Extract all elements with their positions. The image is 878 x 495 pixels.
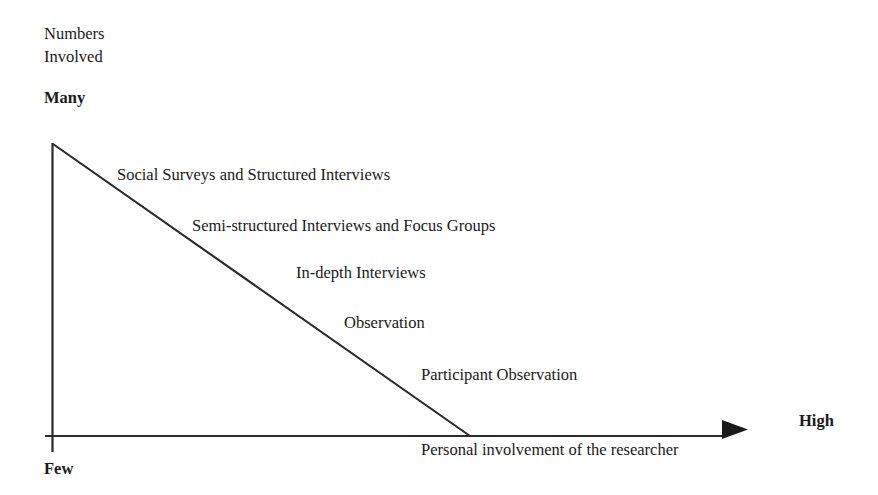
method-label-social-surveys: Social Surveys and Structured Interviews <box>117 167 390 184</box>
y-axis-caption-line2: Involved <box>44 45 105 68</box>
method-label-in-depth-interviews: In-depth Interviews <box>296 265 426 282</box>
chart-axes-and-trend-line <box>0 0 878 495</box>
method-label-semi-structured-interviews: Semi-structured Interviews and Focus Gro… <box>192 218 495 235</box>
research-methods-continuum-figure: Numbers Involved Many Few High Social Su… <box>0 0 878 495</box>
x-axis-arrowhead-icon <box>722 420 748 439</box>
y-axis-caption: Numbers Involved <box>44 22 105 68</box>
x-axis-caption: Personal involvement of the researcher <box>421 442 678 459</box>
y-axis-caption-line1: Numbers <box>44 22 105 45</box>
method-label-observation: Observation <box>344 315 425 332</box>
y-axis-high-label: Many <box>44 90 85 107</box>
x-axis-high-label: High <box>799 413 834 430</box>
method-label-participant-observation: Participant Observation <box>421 367 577 384</box>
y-axis-low-label: Few <box>44 461 73 478</box>
trend-line <box>53 144 470 436</box>
